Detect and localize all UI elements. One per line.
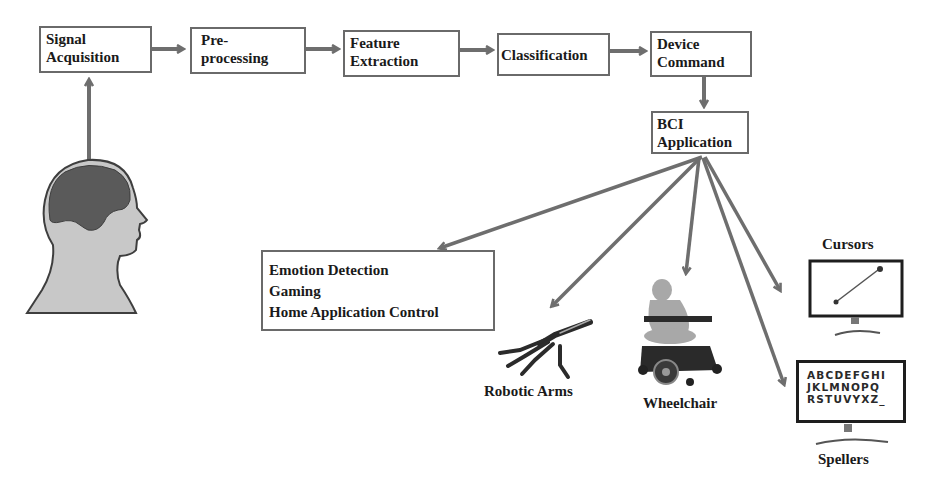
arrow-to-robotic-arms xyxy=(552,158,700,306)
stage-classification: Classification xyxy=(497,33,610,76)
stage-label-line2: Extraction xyxy=(350,52,453,70)
arrow-to-list-box xyxy=(440,157,702,248)
robotic-arms-label: Robotic Arms xyxy=(484,383,573,400)
bci-label-line1: BCI xyxy=(657,115,742,133)
stage-signal-acquisition: Signal Acquisition xyxy=(39,26,152,73)
stage-label-line2: Command xyxy=(657,53,745,71)
bci-label-line2: Application xyxy=(657,133,742,151)
human-head-icon xyxy=(27,160,147,313)
speller-grid: ABCDEFGHI JKLMNOPQ RSTUVYXZ_ xyxy=(799,363,903,405)
wheelchair-icon xyxy=(638,279,722,386)
wheelchair-label: Wheelchair xyxy=(643,395,717,412)
bci-application-box: BCI Application xyxy=(651,111,749,154)
speller-row: RSTUVYXZ_ xyxy=(807,393,903,405)
diagram-connectors xyxy=(0,0,934,489)
spellers-label: Spellers xyxy=(818,451,869,468)
speller-row: ABCDEFGHI xyxy=(807,369,903,381)
cursor-monitor-icon xyxy=(810,261,902,335)
stage-label-line2: Acquisition xyxy=(46,48,145,66)
speller-row: JKLMNOPQ xyxy=(807,381,903,393)
list-item-home-application-control: Home Application Control xyxy=(269,302,487,323)
stage-label-line2: processing xyxy=(197,49,299,67)
arrow-to-wheelchair xyxy=(686,158,699,273)
list-item-emotion-detection: Emotion Detection xyxy=(269,260,487,281)
speller-monitor-icon: ABCDEFGHI JKLMNOPQ RSTUVYXZ_ xyxy=(796,360,906,423)
stage-label-line1: Signal xyxy=(46,30,145,48)
list-item-gaming: Gaming xyxy=(269,281,487,302)
robotic-arm-icon xyxy=(500,320,590,377)
stage-label-line1: Classification xyxy=(501,46,603,64)
stage-label-line1: Device xyxy=(657,35,745,53)
stage-preprocessing: Pre- processing xyxy=(190,27,306,74)
stage-feature-extraction: Feature Extraction xyxy=(343,30,460,77)
stage-label-line1: Feature xyxy=(350,34,453,52)
applications-list-box: Emotion Detection Gaming Home Applicatio… xyxy=(261,250,495,331)
cursors-label: Cursors xyxy=(822,236,874,253)
stage-label-line1: Pre- xyxy=(197,31,299,49)
stage-device-command: Device Command xyxy=(650,31,752,77)
speller-monitor-stand xyxy=(816,424,888,444)
arrow-to-spellers xyxy=(703,158,784,384)
